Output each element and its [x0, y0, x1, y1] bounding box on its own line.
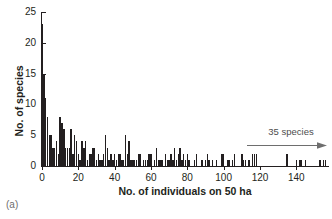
histogram-bar	[139, 154, 140, 166]
x-tick: 140	[296, 166, 297, 167]
x-tick: 20	[78, 166, 79, 167]
histogram-bar	[325, 160, 326, 166]
x-tick-label: 120	[246, 172, 274, 183]
histogram-bar	[319, 160, 320, 166]
histogram-bar	[216, 160, 217, 166]
x-tick: 100	[224, 166, 225, 167]
x-tick-label: 0	[28, 172, 56, 183]
x-tick-label: 40	[101, 172, 129, 183]
histogram-bar	[301, 160, 302, 166]
y-tick-label: 15	[14, 68, 36, 79]
histogram-bar	[161, 160, 162, 166]
x-tick: 60	[151, 166, 152, 167]
x-tick-label: 100	[210, 172, 238, 183]
y-tick-label: 0	[14, 160, 36, 171]
y-tick-label: 25	[14, 6, 36, 17]
histogram-bar	[208, 160, 209, 166]
x-tick-mark	[260, 166, 261, 170]
histogram-bar	[256, 154, 257, 166]
histogram-bar	[201, 160, 202, 166]
y-tick-label: 20	[14, 37, 36, 48]
x-tick: 40	[115, 166, 116, 167]
right-arrow-icon	[247, 142, 327, 149]
annotation-label: 35 species	[254, 126, 328, 137]
histogram-bar	[296, 160, 297, 166]
histogram-bar	[228, 160, 229, 166]
histogram-bar	[305, 160, 306, 166]
x-tick-mark	[187, 166, 188, 170]
x-tick-mark	[115, 166, 116, 170]
histogram-bar	[248, 160, 249, 166]
x-tick-label: 80	[173, 172, 201, 183]
y-tick: 0	[41, 166, 329, 167]
histogram-bar	[150, 154, 151, 166]
histogram-bar	[223, 154, 224, 166]
histogram-bar	[196, 154, 197, 166]
x-tick-mark	[224, 166, 225, 170]
x-tick-label: 140	[282, 172, 310, 183]
x-tick: 80	[187, 166, 188, 167]
x-tick-mark	[296, 166, 297, 170]
x-tick-label: 20	[64, 172, 92, 183]
x-tick: 120	[260, 166, 261, 167]
x-axis-title: No. of individuals on 50 ha	[41, 185, 329, 197]
x-tick-mark	[78, 166, 79, 170]
x-tick-mark	[42, 166, 43, 170]
y-tick-label: 5	[14, 129, 36, 140]
y-tick-label: 10	[14, 98, 36, 109]
histogram-bar	[212, 160, 213, 166]
histogram-bar	[234, 154, 235, 166]
x-tick-label: 60	[137, 172, 165, 183]
x-tick: 0	[42, 166, 43, 167]
histogram-bar	[245, 160, 246, 166]
histogram-bar	[286, 154, 287, 166]
histogram-bar	[188, 160, 189, 166]
panel-label: (a)	[6, 199, 18, 210]
x-tick-mark	[151, 166, 152, 170]
figure-panel: No. of species 0510152025 02040608010012…	[0, 0, 332, 219]
